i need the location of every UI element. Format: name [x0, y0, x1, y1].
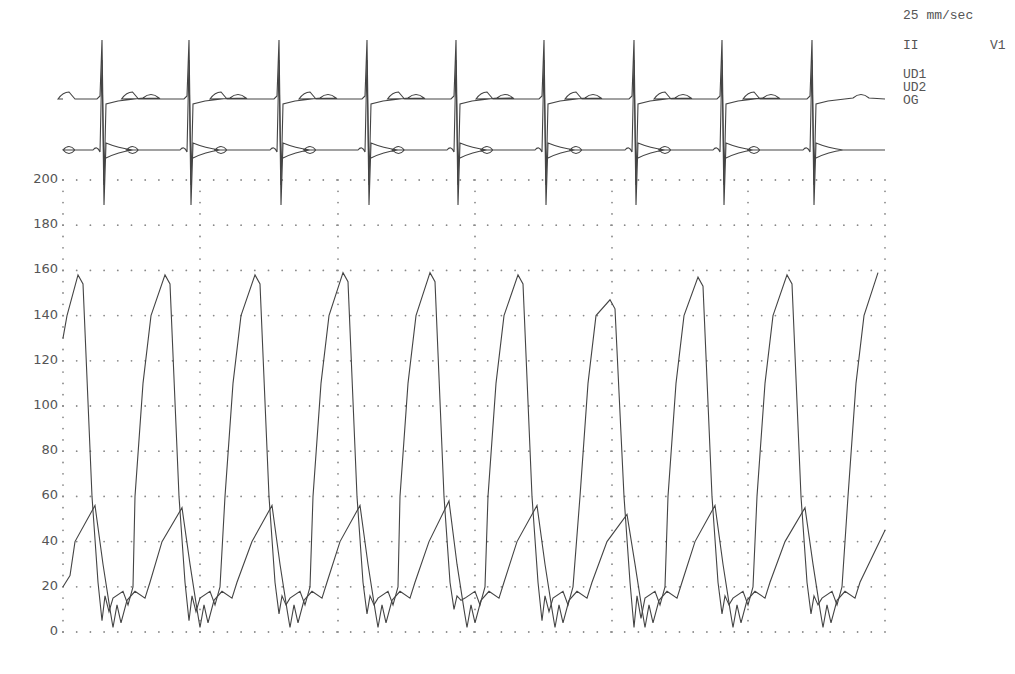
- lead-label-v1: V1: [990, 38, 1006, 53]
- paper-speed-label: 25 mm/sec: [903, 8, 973, 23]
- legend-og: OG: [903, 94, 919, 107]
- lead-label-ii: II: [903, 38, 919, 53]
- y-tick-label: 0: [8, 623, 58, 638]
- y-tick-label: 100: [8, 397, 58, 412]
- y-tick-label: 60: [8, 487, 58, 502]
- y-tick-label: 200: [8, 171, 58, 186]
- y-tick-label: 120: [8, 352, 58, 367]
- y-tick-label: 80: [8, 442, 58, 457]
- y-tick-label: 20: [8, 578, 58, 593]
- pressure-traces: [63, 273, 885, 628]
- pressure-ecg-chart: [0, 0, 1015, 674]
- y-tick-label: 180: [8, 216, 58, 231]
- y-tick-label: 40: [8, 533, 58, 548]
- y-tick-label: 160: [8, 261, 58, 276]
- y-tick-label: 140: [8, 307, 58, 322]
- grid: [62, 179, 886, 633]
